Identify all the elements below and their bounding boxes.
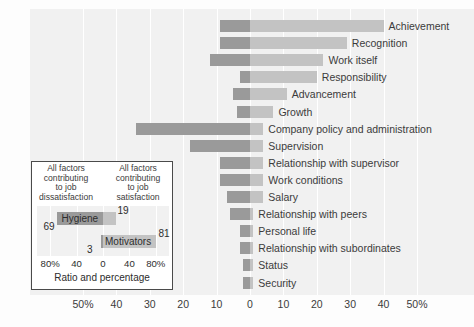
inset-x-axis-tick: 40 — [124, 258, 135, 269]
inset-gridline-80 — [156, 206, 157, 256]
inset-x-axis-tick: 80% — [146, 258, 165, 269]
bar-segment-dissatisfaction — [190, 140, 250, 152]
bar-label: Relationship with subordinates — [258, 241, 400, 255]
bar-segment-satisfaction — [250, 174, 263, 186]
inset-header: All factorscontributingto jobdissatisfac… — [32, 164, 172, 202]
inset-header-left: All factorscontributingto jobdissatisfac… — [32, 164, 100, 202]
bar-segment-dissatisfaction — [227, 191, 250, 203]
bar-segment-satisfaction — [250, 54, 323, 66]
bar-segment-dissatisfaction — [237, 106, 250, 118]
x-axis-tick: 30 — [344, 298, 356, 310]
bar-label: Company policy and administration — [268, 122, 431, 136]
bar-label: Salary — [268, 190, 298, 204]
inset-value-satisfaction: 81 — [158, 228, 169, 239]
x-axis-tick: 20 — [177, 298, 189, 310]
bar-segment-satisfaction — [250, 37, 347, 49]
bar-segment-satisfaction — [250, 140, 263, 152]
bar-label: Responsibility — [322, 70, 387, 84]
x-axis-tick: 10 — [211, 298, 223, 310]
inset-legend-panel: All factorscontributingto jobdissatisfac… — [31, 161, 173, 290]
bar-segment-satisfaction — [250, 191, 263, 203]
bar-row: Supervision — [30, 139, 474, 153]
bar-segment-dissatisfaction — [220, 174, 250, 186]
x-axis: 50%4030201001020304050% — [0, 298, 474, 314]
bar-label: Growth — [278, 105, 312, 119]
bar-segment-dissatisfaction — [220, 20, 250, 32]
bar-segment-satisfaction — [250, 123, 263, 135]
inset-x-axis-tick: 80% — [41, 258, 60, 269]
x-axis-tick: 0 — [247, 298, 253, 310]
bar-segment-dissatisfaction — [243, 277, 250, 289]
inset-header-line: satisfaction — [104, 193, 172, 203]
bar-segment-dissatisfaction — [240, 225, 250, 237]
inset-header-right: All factorscontributingto jobsatisfactio… — [104, 164, 172, 202]
x-axis-tick: 40 — [111, 298, 123, 310]
bar-segment-dissatisfaction — [240, 242, 250, 254]
bar-segment-dissatisfaction — [233, 88, 250, 100]
bar-segment-satisfaction — [250, 71, 317, 83]
bar-segment-satisfaction — [250, 259, 253, 271]
inset-series-label: Motivators — [105, 235, 151, 248]
bar-row: Advancement — [30, 87, 474, 101]
inset-caption: Ratio and percentage — [32, 272, 172, 283]
bar-row: Recognition — [30, 36, 474, 50]
inset-bar-satisfaction — [103, 212, 116, 225]
bar-row: Work itself — [30, 53, 474, 67]
x-axis-tick: 20 — [311, 298, 323, 310]
inset-plot-area: Hygiene6919Motivators381 — [37, 206, 169, 256]
bar-row: Company policy and administration — [30, 122, 474, 136]
bar-segment-satisfaction — [250, 242, 253, 254]
bar-segment-satisfaction — [250, 106, 273, 118]
bar-row: Responsibility — [30, 70, 474, 84]
x-axis-tick: 10 — [278, 298, 290, 310]
bar-segment-dissatisfaction — [243, 259, 250, 271]
x-axis-tick: 40 — [378, 298, 390, 310]
bar-label: Supervision — [268, 139, 323, 153]
bar-label: Personal life — [258, 224, 316, 238]
bar-label: Security — [258, 276, 296, 290]
bar-segment-dissatisfaction — [220, 37, 250, 49]
inset-x-axis: 80%4004080% — [32, 258, 172, 271]
x-axis-tick: 30 — [144, 298, 156, 310]
bar-segment-satisfaction — [250, 208, 253, 220]
inset-x-axis-tick: 40 — [71, 258, 82, 269]
inset-x-axis-tick: 0 — [100, 258, 105, 269]
inset-gridline-40 — [129, 206, 130, 256]
bar-segment-satisfaction — [250, 88, 287, 100]
bar-label: Relationship with supervisor — [268, 156, 399, 170]
bar-label: Work conditions — [268, 173, 343, 187]
bar-label: Recognition — [352, 36, 407, 50]
bar-label: Achievement — [389, 19, 450, 33]
bar-segment-dissatisfaction — [210, 54, 250, 66]
inset-value-dissatisfaction: 3 — [87, 244, 93, 255]
bar-segment-dissatisfaction — [136, 123, 250, 135]
inset-series-label: Hygiene — [61, 212, 98, 225]
inset-value-dissatisfaction: 69 — [43, 221, 54, 232]
bar-label: Advancement — [292, 87, 356, 101]
bar-segment-satisfaction — [250, 225, 253, 237]
x-axis-tick: 50% — [406, 298, 427, 310]
inset-header-line: dissatisfaction — [32, 193, 100, 203]
chart-screenshot: AchievementRecognitionWork itselfRespons… — [0, 0, 474, 327]
bar-segment-dissatisfaction — [220, 157, 250, 169]
bar-row: Growth — [30, 105, 474, 119]
bar-segment-dissatisfaction — [240, 71, 250, 83]
bar-segment-satisfaction — [250, 277, 253, 289]
bar-segment-satisfaction — [250, 157, 263, 169]
bar-label: Work itself — [328, 53, 377, 67]
bar-label: Status — [258, 258, 288, 272]
x-axis-tick: 50% — [72, 298, 93, 310]
bar-segment-satisfaction — [250, 20, 384, 32]
bar-row: Achievement — [30, 19, 474, 33]
inset-value-satisfaction: 19 — [118, 205, 129, 216]
bar-label: Relationship with peers — [258, 207, 367, 221]
bar-segment-dissatisfaction — [230, 208, 250, 220]
